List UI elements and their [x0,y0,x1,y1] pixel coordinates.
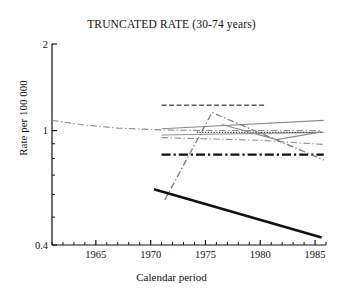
x-axis-ticks [52,240,326,245]
y-axis-ticks [52,44,57,245]
x-tick-label: 1970 [140,249,161,260]
x-tick-label: 1975 [195,249,216,260]
series-mid-solid-flat-grey [162,132,324,135]
y-tick-label: 1 [43,125,48,136]
x-tick-label: 1980 [250,249,271,260]
x-tick-label: 1985 [305,249,326,260]
x-tick-label: 1965 [85,249,106,260]
series-long-term-declining-dashdot [52,120,322,130]
plot-area: 210.4 19651970197519801985 [0,0,343,298]
data-series-group [52,105,324,237]
y-tick-label: 0.4 [35,240,49,251]
y-tick-label: 2 [43,39,48,50]
series-thick-black-declining [154,189,322,237]
chart-figure: TRUNCATED RATE (30-74 years) Rate per 10… [0,0,343,298]
x-axis-tick-labels: 19651970197519801985 [85,249,325,260]
series-lower-dashdot-declining [162,138,324,145]
series-upper-solid-rising [162,120,324,128]
series-steep-rising-falling-dashdot [165,113,324,200]
y-axis-tick-labels: 210.4 [35,39,49,251]
axis-lines [52,44,326,245]
